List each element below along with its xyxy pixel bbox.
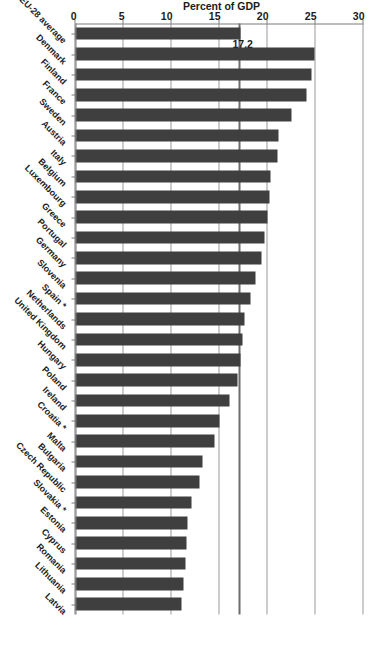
bar <box>75 68 311 81</box>
bar <box>75 434 214 447</box>
category-tick <box>71 380 75 381</box>
bar <box>75 557 185 570</box>
category-tick <box>71 441 75 442</box>
category-tick <box>71 115 75 116</box>
category-tick <box>71 54 75 55</box>
bar-chart-figure: 17.2 051015202530 EU-28 averageDenmarkFi… <box>0 0 388 663</box>
bar <box>75 231 264 244</box>
bars-group <box>75 23 363 614</box>
category-tick <box>71 482 75 483</box>
category-tick <box>71 461 75 462</box>
bar <box>75 190 269 203</box>
bar <box>75 373 237 386</box>
category-tick <box>71 217 75 218</box>
category-tick <box>71 278 75 279</box>
bar <box>75 333 242 346</box>
value-tick-label-30: 30 <box>338 9 364 21</box>
category-tick <box>71 33 75 34</box>
bar <box>75 251 261 264</box>
bar <box>75 353 240 366</box>
category-tick <box>71 298 75 299</box>
value-tick-label-25: 25 <box>290 9 316 21</box>
plot-area: 17.2 051015202530 EU-28 averageDenmarkFi… <box>75 23 363 614</box>
bar <box>75 292 250 305</box>
bar <box>75 516 187 529</box>
bar <box>75 414 219 427</box>
category-tick <box>71 604 75 605</box>
value-tick-label-5: 5 <box>98 9 124 21</box>
bar <box>75 170 270 183</box>
category-tick <box>71 522 75 523</box>
bar <box>75 210 267 223</box>
category-tick <box>71 196 75 197</box>
category-tick <box>71 583 75 584</box>
category-tick <box>71 502 75 503</box>
bar <box>75 312 244 325</box>
value-axis-title: Percent of GDP <box>161 0 281 11</box>
bar <box>75 129 278 142</box>
category-tick <box>71 319 75 320</box>
category-tick <box>71 339 75 340</box>
category-tick <box>71 176 75 177</box>
bar <box>75 47 314 60</box>
category-tick <box>71 74 75 75</box>
value-tick-label-0: 0 <box>50 9 76 21</box>
bar <box>75 536 186 549</box>
bar <box>75 577 183 590</box>
category-tick <box>71 543 75 544</box>
category-tick <box>71 420 75 421</box>
category-tick <box>71 155 75 156</box>
category-tick <box>71 400 75 401</box>
bar <box>75 27 240 40</box>
category-tick <box>71 563 75 564</box>
bar <box>75 394 229 407</box>
bar <box>75 475 199 488</box>
bar <box>75 597 181 610</box>
bar <box>75 271 255 284</box>
bar <box>75 455 202 468</box>
category-tick <box>71 359 75 360</box>
category-tick <box>71 257 75 258</box>
bar <box>75 149 277 162</box>
bar <box>75 88 306 101</box>
category-tick <box>71 135 75 136</box>
category-tick <box>71 94 75 95</box>
category-tick <box>71 237 75 238</box>
bar <box>75 108 291 121</box>
bar <box>75 496 191 509</box>
chart-rotation-wrapper: 17.2 051015202530 EU-28 averageDenmarkFi… <box>0 0 388 663</box>
